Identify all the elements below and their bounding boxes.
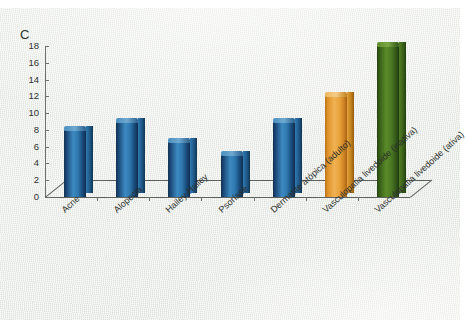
bar-side-face <box>138 118 145 194</box>
bar-top-face <box>377 42 399 47</box>
y-axis-tick-label: 4 <box>17 158 39 168</box>
bar-top-face <box>116 118 138 123</box>
y-axis-tick-mark <box>45 180 49 181</box>
y-axis-line <box>45 46 46 197</box>
x-axis-tick-mark <box>254 197 255 201</box>
y-axis-tick-label: 8 <box>17 125 39 135</box>
y-axis-tick-mark <box>45 96 49 97</box>
y-axis-tick-mark <box>45 163 49 164</box>
y-axis-tick-mark <box>45 46 49 47</box>
bar <box>64 130 86 197</box>
y-axis-tick-label: 16 <box>17 58 39 68</box>
bar-side-face <box>86 126 93 193</box>
bar-top-face <box>273 118 295 123</box>
bar-top-face <box>325 92 347 97</box>
y-axis-tick-label: 12 <box>17 91 39 101</box>
y-axis-tick-label: 18 <box>17 41 39 51</box>
x-axis-tick-mark <box>97 197 98 201</box>
y-axis-tick-label: 14 <box>17 75 39 85</box>
y-axis-tick-label: 2 <box>17 175 39 185</box>
bar-front-face <box>64 130 86 197</box>
y-axis-tick-mark <box>45 147 49 148</box>
y-axis-tick-label: 0 <box>17 192 39 202</box>
y-axis-tick-label: 6 <box>17 142 39 152</box>
x-axis-tick-mark <box>201 197 202 201</box>
y-axis-tick-mark <box>45 80 49 81</box>
bar-front-face <box>377 46 399 197</box>
bar-top-face <box>168 138 190 143</box>
x-axis-tick-mark <box>358 197 359 201</box>
y-axis-tick-mark <box>45 130 49 131</box>
bar <box>377 46 399 197</box>
bar-side-face <box>399 42 406 193</box>
y-axis-tick-mark <box>45 113 49 114</box>
bar-top-face <box>221 151 243 156</box>
x-axis-tick-mark <box>149 197 150 201</box>
y-axis-tick-mark <box>45 63 49 64</box>
bar-top-face <box>64 126 86 131</box>
y-axis-tick-label: 10 <box>17 108 39 118</box>
x-axis-tick-mark <box>306 197 307 201</box>
